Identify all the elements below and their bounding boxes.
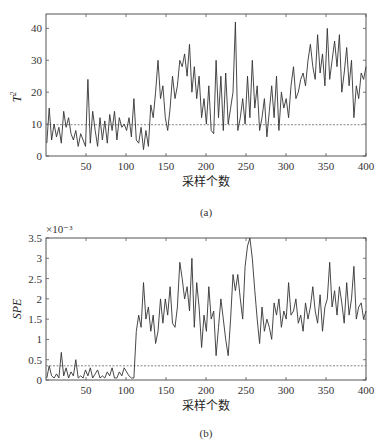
chart-a: 50100150200250300350400010203040 T2 采样个数… (9, 14, 375, 219)
axis-ticks-a: 50100150200250300350400010203040 (31, 14, 375, 172)
x-tick-label: 150 (158, 384, 175, 396)
x-tick-label: 400 (358, 160, 375, 172)
x-tick-label: 250 (238, 384, 255, 396)
plot-frame-b (46, 238, 366, 380)
y-axis-label-a: T2 (9, 92, 24, 103)
y-tick-label: 2.5 (28, 273, 42, 285)
panel-label-a: (a) (200, 206, 213, 219)
x-tick-label: 150 (158, 160, 175, 172)
x-axis-label-a: 采样个数 (182, 174, 230, 189)
spe-series (47, 238, 366, 378)
y-tick-label: 0.5 (28, 354, 42, 366)
x-tick-label: 350 (318, 384, 335, 396)
y-tick-label: 0 (37, 150, 43, 162)
x-tick-label: 300 (278, 384, 295, 396)
x-tick-label: 400 (358, 384, 375, 396)
y-tick-label: 2 (37, 293, 43, 305)
x-tick-label: 200 (198, 384, 215, 396)
y-tick-label: 1.5 (28, 313, 42, 325)
y-tick-label: 10 (31, 118, 43, 130)
y-tick-label: 0 (37, 374, 43, 386)
x-tick-label: 100 (118, 160, 135, 172)
y-tick-label: 1 (37, 333, 43, 345)
figure: 50100150200250300350400010203040 T2 采样个数… (0, 0, 380, 441)
axis-ticks-b: 5010015020025030035040000.511.522.533.5 (28, 232, 375, 396)
x-tick-label: 250 (238, 160, 255, 172)
x-tick-label: 200 (198, 160, 215, 172)
x-axis-label-b: 采样个数 (182, 398, 230, 413)
x-tick-label: 350 (318, 160, 335, 172)
chart-b: 5010015020025030035040000.511.522.533.5 … (10, 223, 375, 440)
y-tick-label: 20 (31, 86, 43, 98)
y-multiplier-b: ×10⁻³ (46, 223, 73, 235)
y-tick-label: 30 (31, 54, 43, 66)
x-tick-label: 100 (118, 384, 135, 396)
y-axis-label-b: SPE (10, 298, 24, 319)
y-tick-label: 3 (37, 252, 43, 264)
y-tick-label: 3.5 (28, 232, 42, 244)
y-tick-label: 40 (31, 22, 43, 34)
t2-series (47, 22, 366, 150)
x-tick-label: 50 (81, 160, 93, 172)
panel-label-b: (b) (200, 427, 213, 440)
x-tick-label: 50 (81, 384, 93, 396)
x-tick-label: 300 (278, 160, 295, 172)
